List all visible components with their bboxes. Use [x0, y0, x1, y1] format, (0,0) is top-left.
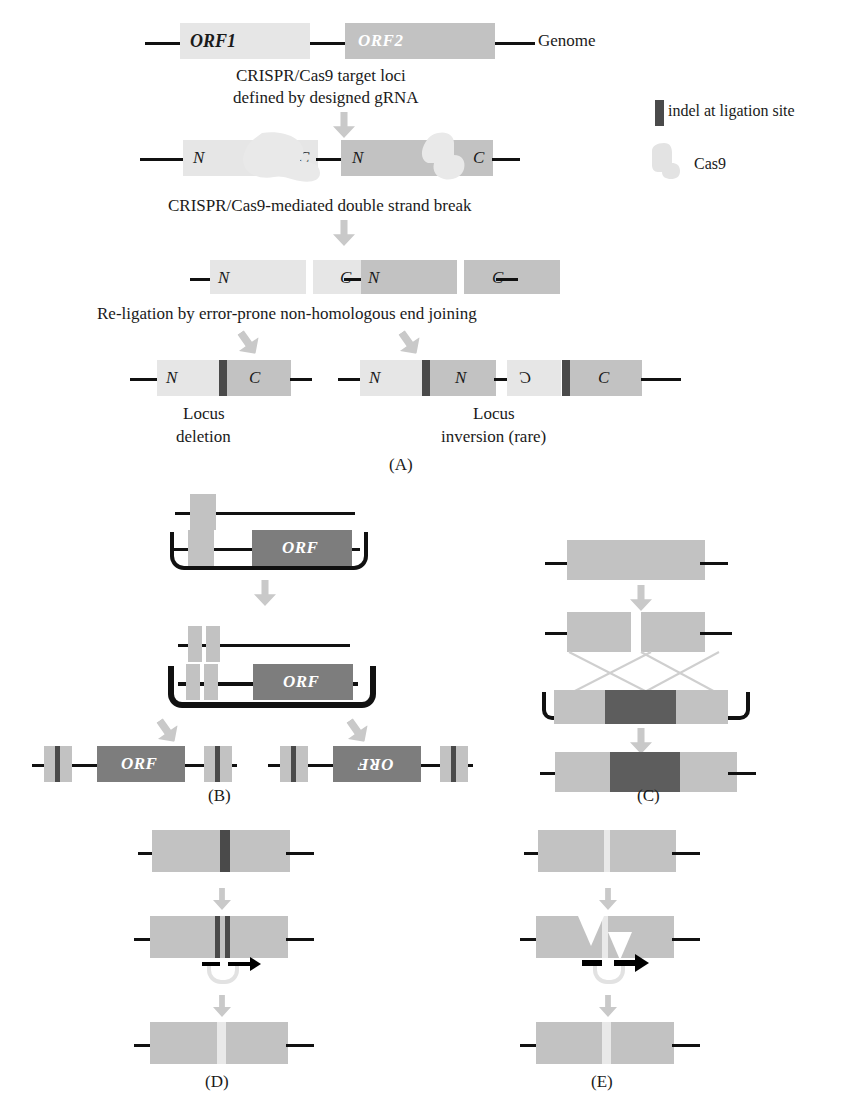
inv-line-left: [338, 378, 362, 381]
row3-n1-label: N: [218, 268, 229, 288]
panelD-nick-left: [215, 916, 220, 958]
panelD-indel-marker-1: [220, 830, 230, 872]
panelE-repair-arrow-shaft: [614, 960, 636, 966]
del-line-right: [290, 378, 312, 381]
panelB-label: (B): [208, 786, 231, 806]
panelE-nick-marker-1: [604, 830, 610, 872]
del-caption-line1: Locus: [183, 404, 225, 424]
arrow-down-step2-icon: [333, 220, 355, 246]
orf1-label: ORF1: [190, 31, 236, 52]
genome-line-left: [145, 42, 185, 45]
panelD-arrow-down-1-icon: [213, 888, 231, 910]
panelE-arrow-down-2-icon: [599, 995, 617, 1017]
panelE-line-3-right: [672, 1044, 700, 1047]
inv-caption-line2: inversion (rare): [441, 427, 546, 447]
cas9-icon-right: [420, 131, 470, 185]
panelB-donor-arm-2a: [186, 664, 200, 700]
panelC-line-3-right: [728, 772, 756, 775]
panelC-donor-insert: [605, 690, 677, 724]
panelB-out1-indel-right: [215, 746, 220, 782]
panelD-repair-arrow-shaft: [228, 962, 251, 966]
panelD-arrow-down-2-icon: [213, 995, 231, 1017]
panelA-step1-line1: CRISPR/Cas9 target loci: [236, 66, 406, 86]
inv-c2-label: C: [598, 368, 609, 388]
panelB-target-block-2a: [188, 626, 202, 662]
panelC-arrow-down-1-icon: [630, 585, 652, 611]
row2-orf2-block: [341, 140, 493, 176]
panelC-locus-1: [567, 540, 705, 580]
panelE-repaired-marker: [602, 1022, 611, 1064]
panelC-cut-right: [641, 612, 705, 652]
row3-line-left: [190, 278, 212, 281]
panelB-arrow-down-1-icon: [254, 580, 276, 606]
panelC-donor-arm-left: [554, 690, 606, 724]
panelC-final-left: [555, 752, 612, 792]
panelD-corrected-marker: [217, 1022, 226, 1064]
inv-revc-block: [507, 360, 561, 396]
del-c-label: C: [249, 368, 260, 388]
panelB-genome-line-2: [178, 644, 350, 647]
panelE-repair-arrow-tail: [582, 960, 602, 966]
panelD-line-3-right: [286, 1044, 314, 1047]
panelD-repair-arrow-tail: [202, 962, 220, 966]
inv-n1-label: N: [369, 368, 380, 388]
panelE-repair-arrow-head-icon: [635, 954, 649, 972]
legend-indel-label: indel at ligation site: [668, 102, 795, 120]
indel-swatch-icon: [655, 100, 664, 126]
genome-line-mid: [310, 42, 350, 45]
panelC-donor-arm-right: [676, 690, 728, 724]
panelE-line-2-right: [672, 938, 700, 941]
panelB-donor-arm-1: [188, 530, 214, 566]
inv-revc-glyph: C: [520, 368, 531, 388]
inv-caption-line1: Locus: [473, 404, 515, 424]
panelB-target-block-2b: [206, 626, 220, 662]
panelB-orf-label-2: ORF: [283, 672, 319, 692]
inv-revc-label: C: [520, 368, 531, 388]
arrow-down-step1-icon: [333, 112, 355, 138]
genome-label: Genome: [538, 31, 596, 51]
del-n-label: N: [166, 368, 177, 388]
panelE-nick-marker-2: [602, 916, 608, 958]
panelD-line-2-right: [286, 938, 314, 941]
panelB-out1-orf-label: ORF: [121, 754, 157, 774]
panelB-arrow-diag-right-icon: [340, 713, 375, 748]
panelD-nick-right: [225, 916, 230, 958]
del-caption-line2: deletion: [176, 427, 231, 447]
row2-line-left: [140, 158, 185, 161]
panelC-cut-left: [567, 612, 631, 652]
row2-line-right: [492, 158, 520, 161]
panelD-line-1-right: [286, 852, 314, 855]
panelA-label: (A): [389, 455, 413, 475]
figure-canvas: indel at ligation site Cas9 ORF1 ORF2 Ge…: [0, 0, 841, 1112]
panelB-target-block-1: [190, 494, 216, 530]
genome-line-right: [495, 42, 535, 45]
arrow-diag-right-icon: [392, 325, 427, 360]
legend-cas9-label: Cas9: [694, 155, 726, 173]
panelD-label: (D): [205, 1072, 229, 1092]
inv-n2-label: N: [455, 368, 466, 388]
row2-n1-label: N: [193, 148, 204, 168]
row3-frag4: [464, 260, 560, 294]
panelB-arrow-diag-left-icon: [150, 713, 185, 748]
panelA-step3-text: Re-ligation by error-prone non-homologou…: [97, 304, 477, 324]
row3-line-right: [496, 278, 518, 281]
panelA-step2-text: CRISPR/Cas9-mediated double strand break: [168, 196, 472, 216]
panelC-label: (C): [637, 786, 660, 806]
panelB-out2-indel-right: [451, 746, 456, 782]
panelE-arrow-down-1-icon: [599, 888, 617, 910]
inv-line-right: [641, 378, 681, 381]
panelE-line-1-right: [672, 852, 700, 855]
row2-c2-label: C: [473, 148, 484, 168]
panelE-label: (E): [591, 1072, 613, 1092]
cas9-icon: [650, 141, 688, 181]
panelD-repair-arrow-head-icon: [250, 957, 261, 971]
panelC-line-2-right: [700, 632, 732, 635]
panelB-out2-orf-label: ORF: [357, 754, 393, 774]
panelB-donor-arm-2b: [204, 664, 218, 700]
cas9-icon-left: [240, 131, 330, 185]
panelB-out2-indel-left: [291, 746, 296, 782]
del-line-left: [130, 378, 160, 381]
orf2-label: ORF2: [358, 31, 403, 51]
panelC-line-1-right: [700, 562, 728, 565]
arrow-diag-left-icon: [231, 325, 266, 360]
